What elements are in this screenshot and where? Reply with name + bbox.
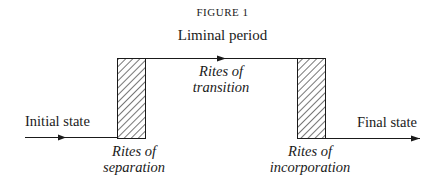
initial-state-label: Initial state	[25, 114, 90, 130]
separation-line2: separation	[94, 160, 174, 176]
rites-of-transition-label: Rites of transition	[171, 64, 271, 96]
incorporation-line1: Rites of	[262, 144, 358, 160]
liminal-period-label: Liminal period	[0, 27, 445, 44]
incorporation-line2: incorporation	[262, 160, 358, 176]
rites-of-separation-label: Rites of separation	[94, 144, 174, 176]
separation-box	[118, 59, 146, 139]
figure-title: FIGURE 1	[0, 6, 445, 18]
separation-line1: Rites of	[94, 144, 174, 160]
rites-of-incorporation-label: Rites of incorporation	[262, 144, 358, 176]
initial-arrow-icon	[58, 135, 66, 141]
final-arrow-icon	[411, 136, 420, 142]
transition-line1: Rites of	[171, 64, 271, 80]
incorporation-box	[298, 59, 326, 139]
transition-line2: transition	[171, 80, 271, 96]
final-state-label: Final state	[357, 115, 417, 131]
liminal-arrow-icon	[217, 56, 226, 62]
